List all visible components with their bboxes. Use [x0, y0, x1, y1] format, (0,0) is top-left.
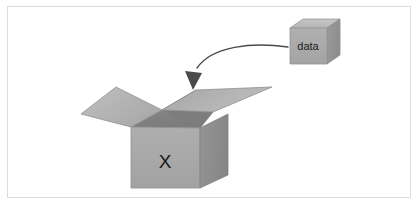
data-cube-group: data	[290, 19, 340, 64]
box-flap-right	[162, 87, 272, 112]
figure-root: X data	[0, 0, 419, 206]
box-side-face	[200, 114, 228, 188]
curved-arrow-path	[197, 45, 288, 68]
curved-arrow-group	[185, 45, 288, 90]
data-cube-label: data	[297, 40, 319, 52]
box-label-x: X	[159, 151, 172, 172]
curved-arrow-head	[185, 71, 202, 90]
open-box-group: X	[81, 87, 272, 188]
box-data-diagram: X data	[0, 0, 419, 206]
